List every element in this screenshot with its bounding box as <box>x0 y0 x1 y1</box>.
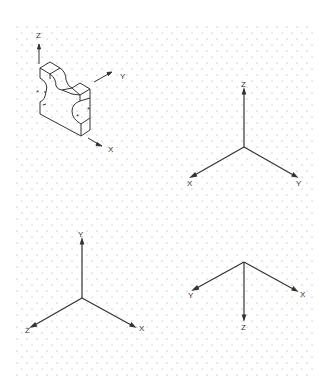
object-y-label: Y <box>120 72 126 81</box>
triad2-label-left: Z <box>25 326 30 335</box>
triad3-label-right: X <box>300 290 306 299</box>
isometric-drawing-sheet: * * * Z Y X Z X Y Y Z X <box>0 0 329 384</box>
marker-asterisk: * <box>36 88 39 97</box>
marker-asterisk: * <box>76 112 79 121</box>
triad1-label-up: Z <box>241 80 246 89</box>
triad2-label-right: X <box>139 324 145 333</box>
triad-bottom-right <box>193 262 297 320</box>
dot-grid <box>16 26 312 375</box>
triad3-label-left: Y <box>188 291 194 300</box>
triad3-label-down: Z <box>241 323 246 332</box>
triad1-label-left: X <box>187 179 193 188</box>
triad-top-right <box>191 89 297 177</box>
triad-bottom-left <box>31 239 135 327</box>
object-axes <box>38 44 113 146</box>
triad2-label-up: Y <box>78 230 84 239</box>
object-x-label: X <box>108 145 114 154</box>
triad1-label-right: Y <box>296 179 302 188</box>
marker-asterisk: * <box>87 105 90 114</box>
object-z-label: Z <box>36 31 41 40</box>
